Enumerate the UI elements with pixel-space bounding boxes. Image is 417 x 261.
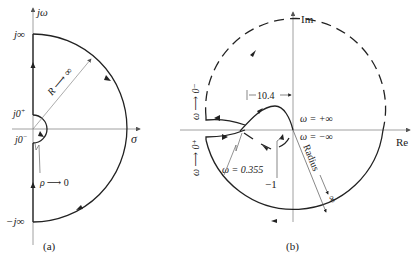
j0-minus-sup: − <box>23 133 28 141</box>
curve-omega-0-plus <box>206 130 245 140</box>
caption-b: (b) <box>286 240 299 253</box>
diagram-a-nyquist-contour: jω j∞ −j∞ σ j0+ j0− R ⟶ ∞ ρ⟶ 0 (a) <box>6 6 140 253</box>
label-jw: jω <box>35 6 48 18</box>
radius-arrow-b <box>320 175 328 194</box>
j0-plus-base: j0 <box>11 108 21 119</box>
arrow-indent <box>38 131 44 137</box>
arrow-arc-upper <box>104 75 111 81</box>
rho-leader <box>35 143 40 173</box>
label-10-4: 10.4 <box>257 90 275 101</box>
curve-main-positive <box>240 106 293 131</box>
nyquist-figure: jω j∞ −j∞ σ j0+ j0− R ⟶ ∞ ρ⟶ 0 (a) <box>0 0 417 261</box>
curve-omega-0-minus <box>206 117 245 125</box>
curve-mirror-dash-1 <box>244 133 253 139</box>
label-j0-minus: j0− <box>13 133 28 145</box>
arrow-b-bottom <box>271 219 277 223</box>
label-R-to-inf: R ⟶ ∞ <box>44 65 74 98</box>
label-neg-j-inf: −j∞ <box>6 215 24 227</box>
rho-rest: ⟶ 0 <box>47 177 69 188</box>
critical-leader <box>277 138 281 178</box>
diagram-b-nyquist-plot: 10.4 Im Re ω = +∞ ω = −∞ ω = 0.355 −1 Ra… <box>180 12 410 253</box>
label-neg-one: −1 <box>265 178 277 190</box>
rho-symbol: ρ <box>39 177 45 188</box>
label-omega-minus-inf: ω = −∞ <box>300 131 333 142</box>
label-Re: Re <box>396 136 408 148</box>
caption-a: (a) <box>43 240 56 253</box>
label-sigma: σ <box>131 132 138 146</box>
j0-minus-base: j0 <box>13 134 23 145</box>
arrow-up-upper <box>31 62 36 68</box>
dashed-infinite-arc <box>206 19 386 130</box>
label-omega-plus-inf: ω = +∞ <box>300 113 333 124</box>
label-j0-plus: j0+ <box>11 107 26 119</box>
label-j-inf: j∞ <box>12 28 25 40</box>
radius-line-b <box>293 130 326 212</box>
curve-mirror-dash-3 <box>279 138 289 147</box>
arrow-up-lower <box>31 182 36 188</box>
arrow-b-dashed <box>250 50 256 57</box>
label-omega-to-0-plus: ω ⟶ 0⁺ <box>190 139 201 176</box>
arrow-arc-lower <box>76 205 83 210</box>
label-omega-0355: ω = 0.355 <box>222 164 263 175</box>
label-omega-to-0-minus: ω ⟶ 0⁻ <box>190 83 201 120</box>
label-rho-to-0: ρ⟶ 0 <box>39 177 69 188</box>
label-Im: Im <box>301 13 314 25</box>
j0-plus-sup: + <box>21 107 26 115</box>
